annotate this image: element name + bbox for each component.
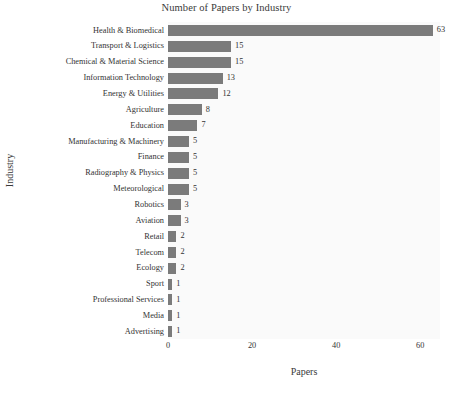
bar bbox=[168, 279, 172, 290]
category-label: Finance bbox=[0, 153, 164, 161]
bar-value-label: 1 bbox=[176, 296, 180, 304]
bar bbox=[168, 326, 172, 337]
bar-value-label: 12 bbox=[222, 90, 230, 98]
category-label: Chemical & Material Science bbox=[0, 58, 164, 66]
bar-container: 2 bbox=[168, 263, 185, 274]
category-label: Aviation bbox=[0, 217, 164, 225]
bar-container: 1 bbox=[168, 326, 180, 337]
category-label: Radiography & Physics bbox=[0, 169, 164, 177]
bar-value-label: 5 bbox=[193, 153, 197, 161]
bar-container: 8 bbox=[168, 104, 210, 115]
bar-value-label: 15 bbox=[235, 42, 243, 50]
bar-value-label: 15 bbox=[235, 58, 243, 66]
bar-value-label: 5 bbox=[193, 137, 197, 145]
bar-rows: Health & Biomedical63Transport & Logisti… bbox=[0, 22, 453, 339]
bar bbox=[168, 184, 189, 195]
bar bbox=[168, 215, 181, 226]
bar-value-label: 2 bbox=[180, 248, 184, 256]
bar bbox=[168, 57, 231, 68]
x-axis-title: Papers bbox=[168, 366, 440, 377]
category-label: Robotics bbox=[0, 201, 164, 209]
bar-value-label: 5 bbox=[193, 169, 197, 177]
category-label: Ecology bbox=[0, 264, 164, 272]
bar-value-label: 2 bbox=[180, 264, 184, 272]
bar bbox=[168, 120, 197, 131]
bar-container: 12 bbox=[168, 88, 231, 99]
bar bbox=[168, 310, 172, 321]
bar-container: 5 bbox=[168, 136, 197, 147]
bar-container: 13 bbox=[168, 73, 235, 84]
bar-value-label: 3 bbox=[185, 201, 189, 209]
category-label: Education bbox=[0, 122, 164, 130]
category-label: Telecom bbox=[0, 249, 164, 257]
x-tick-label: 40 bbox=[316, 341, 356, 350]
category-label: Manufacturing & Machinery bbox=[0, 138, 164, 146]
bar-container: 3 bbox=[168, 215, 189, 226]
bar bbox=[168, 247, 176, 258]
bar-container: 15 bbox=[168, 41, 243, 52]
bar-value-label: 7 bbox=[201, 121, 205, 129]
category-label: Energy & Utilities bbox=[0, 90, 164, 98]
bar bbox=[168, 168, 189, 179]
bar-chart: Number of Papers by Industry Industry He… bbox=[0, 0, 453, 395]
bar-container: 2 bbox=[168, 231, 185, 242]
bar-value-label: 5 bbox=[193, 185, 197, 193]
bar bbox=[168, 294, 172, 305]
bar-value-label: 3 bbox=[185, 217, 189, 225]
chart-title: Number of Papers by Industry bbox=[0, 2, 453, 13]
x-tick-label: 20 bbox=[232, 341, 272, 350]
bar-value-label: 1 bbox=[176, 312, 180, 320]
bar-container: 5 bbox=[168, 168, 197, 179]
bar bbox=[168, 104, 202, 115]
bar bbox=[168, 263, 176, 274]
bar-container: 1 bbox=[168, 294, 180, 305]
bar bbox=[168, 25, 433, 36]
bar bbox=[168, 41, 231, 52]
category-label: Transport & Logistics bbox=[0, 42, 164, 50]
x-tick-label: 0 bbox=[148, 341, 188, 350]
category-label: Sport bbox=[0, 280, 164, 288]
category-label: Meteorological bbox=[0, 185, 164, 193]
category-label: Information Technology bbox=[0, 74, 164, 82]
bar bbox=[168, 73, 223, 84]
category-label: Advertising bbox=[0, 328, 164, 336]
bar-container: 5 bbox=[168, 152, 197, 163]
bar bbox=[168, 88, 218, 99]
category-label: Media bbox=[0, 312, 164, 320]
bar-container: 5 bbox=[168, 184, 197, 195]
category-label: Retail bbox=[0, 233, 164, 241]
bar bbox=[168, 199, 181, 210]
category-label: Professional Services bbox=[0, 296, 164, 304]
bar-container: 2 bbox=[168, 247, 185, 258]
bar-value-label: 8 bbox=[206, 106, 210, 114]
bar-container: 15 bbox=[168, 57, 243, 68]
bar-row: Advertising1 bbox=[0, 323, 453, 341]
bar bbox=[168, 231, 176, 242]
bar-container: 1 bbox=[168, 279, 180, 290]
bar-container: 63 bbox=[168, 25, 445, 36]
bar-container: 7 bbox=[168, 120, 206, 131]
bar bbox=[168, 136, 189, 147]
x-axis-ticks: 0204060 bbox=[0, 341, 453, 357]
bar-value-label: 2 bbox=[180, 232, 184, 240]
bar-container: 3 bbox=[168, 199, 189, 210]
bar bbox=[168, 152, 189, 163]
category-label: Agriculture bbox=[0, 106, 164, 114]
category-label: Health & Biomedical bbox=[0, 27, 164, 35]
bar-value-label: 1 bbox=[176, 327, 180, 335]
bar-value-label: 13 bbox=[227, 74, 235, 82]
bar-value-label: 1 bbox=[176, 280, 180, 288]
bar-container: 1 bbox=[168, 310, 180, 321]
bar-value-label: 63 bbox=[437, 26, 445, 34]
x-tick-label: 60 bbox=[400, 341, 440, 350]
